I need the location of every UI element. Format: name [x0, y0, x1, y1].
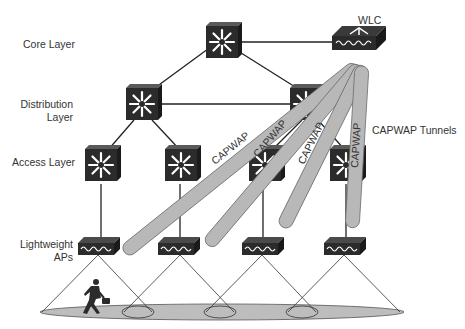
- distribution-switch-left: [126, 84, 162, 120]
- core-switch: [206, 22, 242, 58]
- access-point-4: [324, 237, 366, 255]
- access-point-1: [78, 237, 120, 255]
- access-switch-1: [85, 145, 121, 181]
- network-diagram: CAPWAP CAPWAP CAPWAP CAPWAP: [0, 0, 465, 329]
- access-point-3: [242, 237, 284, 255]
- access-point-2: [158, 237, 200, 255]
- wlc-device: [332, 26, 386, 50]
- access-switch-2: [165, 145, 201, 181]
